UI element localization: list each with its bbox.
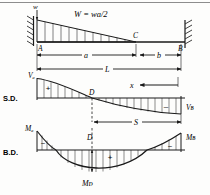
dimension-b: b [140,44,181,60]
moment-curve-left-negative [37,131,56,150]
shear-va-label: Vₐ [28,71,35,80]
moment-positive-sign: + [108,153,113,162]
support-right-fixed [185,20,192,48]
dimension-b-label: b [157,51,161,60]
moment-point-d-label: D [86,133,93,142]
shear-diagram-group: + – Vₐ Vʙ S.D. D x S [3,71,195,127]
moment-mb-label: Mʙ [185,133,196,142]
support-a-label: A [37,44,43,53]
beam-group: w W = wa/2 [27,3,192,53]
load-intensity-label: w [33,3,38,11]
point-c-label: C [133,31,139,40]
shear-negative-sign: – [164,102,169,111]
moment-left-negative-sign: – [41,139,45,146]
dimension-a: a [37,44,136,60]
figure-root: w W = wa/2 [0,0,210,195]
dimension-a-label: a [84,51,88,60]
dimension-x-label: x [129,81,134,90]
moment-md-label: Mᴅ [81,179,93,188]
dimension-x: x [129,77,178,90]
triangular-load-outline [37,20,136,42]
moment-diagram-caption: B.D. [3,148,18,157]
shear-positive-sign: + [46,84,51,93]
moment-diagram-group: – + – D [3,124,196,188]
moment-curve-positive [56,150,147,168]
dimension-group: a b L [37,44,181,74]
moment-right-negative-sign: – [168,142,172,149]
support-left-fixed [27,16,34,46]
shear-vb-label: Vʙ [186,103,195,112]
dimension-S: S [94,114,181,127]
resultant-formula-label: W = wa/2 [74,9,108,19]
shear-point-d-label: D [88,88,95,97]
beam-diagram-svg: w W = wa/2 [0,0,210,195]
dimension-S-label: S [134,118,138,127]
support-b-label: B [178,44,183,53]
moment-ma-label: Mₐ [24,124,33,133]
shear-diagram-caption: S.D. [3,94,18,103]
dimension-L-label: L [104,65,110,74]
